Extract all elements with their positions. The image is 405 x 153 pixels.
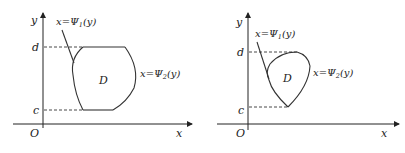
right-diagram: y x O d c D x=Ψ1(y) x=Ψ2(y) <box>217 13 399 140</box>
left-origin-label: O <box>30 127 39 140</box>
right-origin-label: O <box>236 127 245 140</box>
right-psi1-label: x=Ψ1(y) <box>255 28 295 41</box>
left-d-label: d <box>32 41 39 54</box>
right-y-axis-label: y <box>235 16 243 29</box>
left-psi2-label: x=Ψ2(y) <box>140 68 180 81</box>
left-region-label: D <box>98 74 108 87</box>
right-region-label: D <box>282 72 292 85</box>
left-diagram: y x O d c D x=Ψ1(y) x=Ψ2(y) <box>13 13 192 140</box>
diagram-canvas: y x O d c D x=Ψ1(y) x=Ψ2(y) y x O d c D … <box>0 0 405 153</box>
right-psi2-label: x=Ψ2(y) <box>313 67 353 80</box>
right-x-axis-label: x <box>381 127 388 140</box>
left-psi1-leader <box>62 30 74 63</box>
left-x-axis-label: x <box>176 127 183 140</box>
left-psi1-curve <box>72 47 83 110</box>
left-c-label: c <box>33 104 39 117</box>
right-c-label: c <box>238 104 244 117</box>
left-psi1-label: x=Ψ1(y) <box>56 16 96 29</box>
right-psi1-leader <box>257 42 269 79</box>
left-y-axis-label: y <box>30 14 38 27</box>
right-d-label: d <box>237 46 244 59</box>
left-psi2-curve <box>113 47 136 110</box>
